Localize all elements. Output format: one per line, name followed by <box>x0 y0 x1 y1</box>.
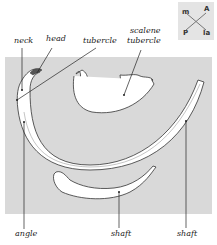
label-angle: angle <box>15 230 37 238</box>
label-shaft-small-rib: shaft <box>111 230 131 238</box>
label-neck: neck <box>14 37 33 45</box>
label-shaft-large-rib: shaft <box>177 230 197 238</box>
compass-arrows-icon <box>186 13 206 30</box>
label-scalene: scalene <box>130 27 161 35</box>
label-tubercle: tubercle <box>83 37 117 45</box>
label-scalene-tubercle: tubercle <box>127 37 161 45</box>
label-head: head <box>46 35 66 43</box>
small-rib-bone <box>53 166 156 199</box>
